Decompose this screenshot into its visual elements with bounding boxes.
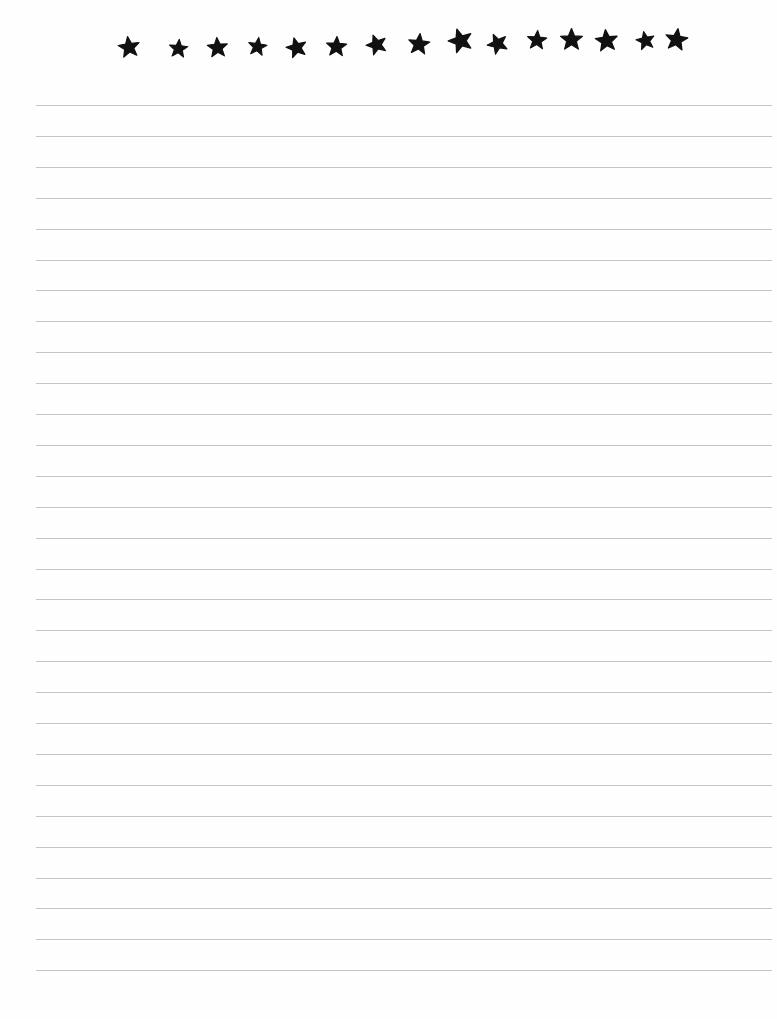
ruled-line bbox=[36, 414, 772, 415]
ruled-line bbox=[36, 445, 772, 446]
ruled-line bbox=[36, 939, 772, 940]
lined-paper-page bbox=[0, 0, 777, 1019]
ruled-line bbox=[36, 105, 772, 106]
ruled-line bbox=[36, 507, 772, 508]
ruled-line bbox=[36, 167, 772, 168]
ruled-line bbox=[36, 723, 772, 724]
ruled-line bbox=[36, 260, 772, 261]
ruled-line bbox=[36, 383, 772, 384]
ruled-line bbox=[36, 754, 772, 755]
ruled-line bbox=[36, 136, 772, 137]
ruled-line bbox=[36, 661, 772, 662]
ruled-line bbox=[36, 816, 772, 817]
ruled-line bbox=[36, 692, 772, 693]
ruled-line bbox=[36, 599, 772, 600]
ruled-line bbox=[36, 569, 772, 570]
ruled-line bbox=[36, 321, 772, 322]
ruled-lines bbox=[36, 0, 772, 1019]
ruled-line bbox=[36, 229, 772, 230]
ruled-line bbox=[36, 198, 772, 199]
ruled-line bbox=[36, 538, 772, 539]
ruled-line bbox=[36, 908, 772, 909]
ruled-line bbox=[36, 970, 772, 971]
ruled-line bbox=[36, 352, 772, 353]
ruled-line bbox=[36, 630, 772, 631]
ruled-line bbox=[36, 847, 772, 848]
ruled-line bbox=[36, 290, 772, 291]
ruled-line bbox=[36, 476, 772, 477]
ruled-line bbox=[36, 785, 772, 786]
ruled-line bbox=[36, 878, 772, 879]
